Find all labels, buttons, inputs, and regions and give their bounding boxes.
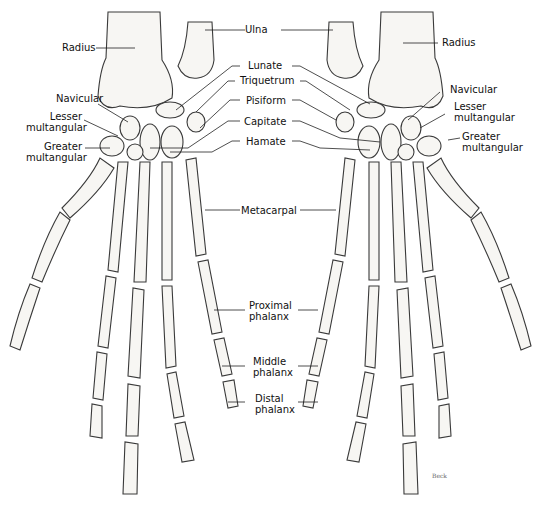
hand-skeleton-diagram: Ulna Radius Radius Lunate Triquetrum Pis… (0, 0, 541, 522)
label-hamate: Hamate (246, 136, 286, 147)
label-navicular-right: Navicular (450, 84, 497, 95)
label-lunate: Lunate (248, 60, 282, 71)
label-triquetrum: Triquetrum (240, 75, 294, 86)
label-middle-phalanx: Middle phalanx (253, 356, 293, 378)
label-distal-phalanx: Distal phalanx (255, 393, 295, 415)
label-pisiform: Pisiform (246, 95, 286, 106)
label-greater-multangular-left: Greater multangular (26, 141, 82, 163)
artist-signature: Beck (432, 472, 447, 479)
label-radius-right: Radius (442, 37, 476, 48)
label-greater-multangular-right: Greater multangular (462, 131, 523, 153)
label-radius-left: Radius (62, 42, 96, 53)
label-proximal-phalanx: Proximal phalanx (249, 300, 292, 322)
left-hand (10, 12, 238, 494)
label-metacarpal: Metacarpal (241, 205, 297, 216)
label-lesser-multangular-left: Lesser multangular (26, 111, 82, 133)
label-ulna: Ulna (245, 24, 268, 35)
label-navicular-left: Navicular (56, 93, 103, 104)
label-lesser-multangular-right: Lesser multangular (454, 101, 515, 123)
label-capitate: Capitate (244, 116, 286, 127)
